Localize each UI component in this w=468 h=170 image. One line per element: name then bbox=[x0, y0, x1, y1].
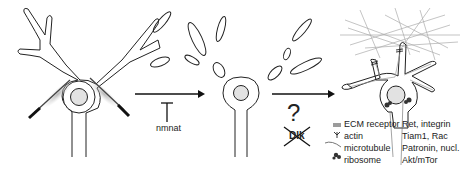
diagram-canvas bbox=[0, 0, 468, 170]
molecule-4: Akt/mTor bbox=[402, 154, 438, 166]
actin-icon bbox=[334, 132, 340, 138]
microtubule-icon bbox=[325, 142, 341, 147]
ecm-receptor-icon bbox=[333, 124, 341, 126]
ribosome-icon bbox=[332, 153, 341, 160]
legend-actin: actin bbox=[344, 130, 363, 142]
molecule-2: Tiam1, Rac bbox=[402, 130, 448, 142]
legend-microtubule: microtubule bbox=[344, 142, 391, 154]
molecule-1: Ret, integrin bbox=[402, 118, 451, 130]
molecule-3: Patronin, nucl. bbox=[402, 142, 460, 154]
legend-ribosome: ribosome bbox=[344, 154, 381, 166]
crossed-out-label: Dlk bbox=[289, 130, 305, 142]
legend-ecm-receptor: ECM receptor bbox=[344, 118, 400, 130]
microtubules-internal bbox=[349, 48, 433, 90]
inhibitor-label: nmnat bbox=[156, 122, 181, 134]
question-mark: ? bbox=[287, 101, 300, 125]
arrow-1 bbox=[135, 90, 205, 122]
